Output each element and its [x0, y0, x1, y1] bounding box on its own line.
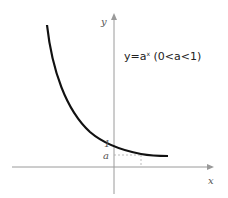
y-intercept-label: 1	[104, 138, 110, 149]
a-label: a	[103, 150, 109, 161]
equation-label: y=ax (0<a<1)	[124, 50, 201, 63]
y-axis-label: y	[100, 16, 107, 27]
exponential-curve	[47, 25, 168, 156]
x-axis-label: x	[208, 175, 214, 186]
y-axis-arrow-icon	[111, 13, 117, 20]
x-axis-arrow-icon	[207, 164, 214, 170]
exponential-graph: y x 1 a y=ax (0<a<1)	[0, 0, 228, 198]
